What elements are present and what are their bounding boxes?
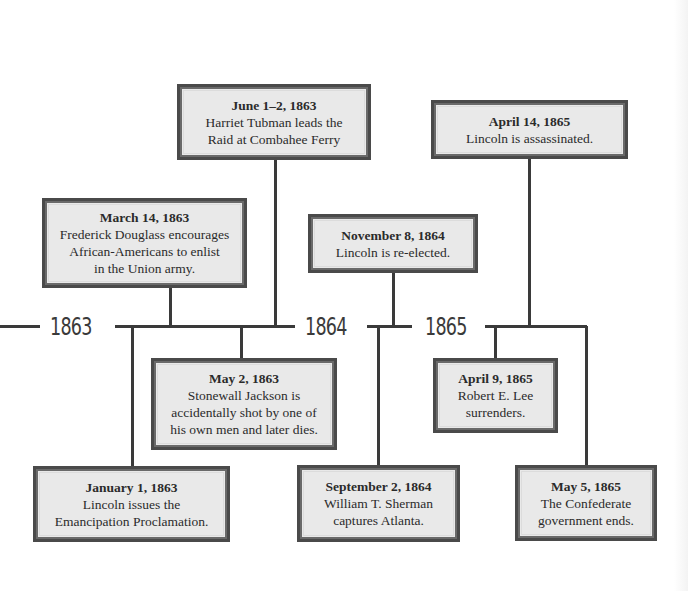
event-box-apr9-1865: April 9, 1865 Robert E. Lee surrenders. [433,358,558,433]
event-box-may5-1865: May 5, 1865 The Confederate government e… [515,465,657,541]
event-box-jan-1863: January 1, 1863 Lincoln issues the Emanc… [33,466,230,542]
connector-jan-1863 [131,326,134,466]
event-box-march-1863: March 14, 1863 Frederick Douglass encour… [42,198,247,288]
event-description: Harriet Tubman leads the Raid at Combahe… [206,114,343,148]
event-box-nov-1864: November 8, 1864 Lincoln is re-elected. [308,214,478,273]
event-box-sep-1864: September 2, 1864 William T. Sherman cap… [297,465,460,542]
event-box-may2-1863: May 2, 1863 Stonewall Jackson is acciden… [151,358,337,450]
connector-may5-1865 [585,326,588,466]
event-description: Frederick Douglass encourages African-Am… [60,226,229,277]
year-label-1865: 1865 [425,314,467,339]
event-date: May 2, 1863 [209,370,279,387]
timeline-diagram: 1863 1864 1865 June 1–2, 1863 Harriet Tu… [0,0,688,591]
event-date: April 14, 1865 [489,113,570,130]
connector-june-1863 [274,160,277,327]
event-box-june-1863: June 1–2, 1863 Harriet Tubman leads the … [177,84,371,160]
connector-apr14-1865 [528,158,531,327]
connector-march-1863 [169,287,172,327]
event-description: Lincoln is assassinated. [466,130,593,147]
axis-segment-left [0,325,40,328]
axis-segment-1864 [367,325,412,328]
event-date: November 8, 1864 [341,227,445,244]
axis-segment-1865 [485,325,587,328]
event-date: September 2, 1864 [326,478,432,495]
connector-may2-1863 [240,326,243,360]
event-date: January 1, 1863 [86,479,178,496]
connector-nov-1864 [392,272,395,327]
page-edge-shadow [674,0,688,591]
event-description: Lincoln issues the Emancipation Proclama… [55,496,209,530]
event-date: May 5, 1865 [551,478,621,495]
event-description: Lincoln is re-elected. [336,244,450,261]
connector-apr9-1865 [494,326,497,360]
event-box-apr14-1865: April 14, 1865 Lincoln is assassinated. [431,100,628,159]
year-label-1864: 1864 [305,314,347,339]
event-description: The Confederate government ends. [538,495,634,529]
event-description: Stonewall Jackson is accidentally shot b… [170,387,318,438]
year-label-1863: 1863 [50,314,92,339]
axis-segment-1863 [115,325,295,328]
event-date: April 9, 1865 [458,370,533,387]
event-description: Robert E. Lee surrenders. [458,387,533,421]
event-date: June 1–2, 1863 [231,97,316,114]
event-description: William T. Sherman captures Atlanta. [324,495,433,529]
event-date: March 14, 1863 [100,209,189,226]
connector-sep-1864 [377,326,380,466]
